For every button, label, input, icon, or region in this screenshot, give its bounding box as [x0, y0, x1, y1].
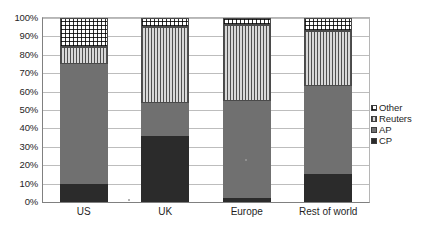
bar-segment-cp	[304, 174, 352, 202]
bar-stack	[141, 18, 189, 202]
y-axis: 100%90%80%70%60%50%40%30%20%10%0%	[0, 17, 38, 203]
x-tick-label: US	[43, 206, 125, 218]
x-tick-label: Europe	[206, 206, 288, 218]
bar-segment-other	[304, 18, 352, 31]
bottom-caption	[6, 228, 306, 233]
legend-item-label: AP	[379, 124, 391, 135]
legend-swatch-icon	[371, 127, 377, 133]
bar-group	[223, 18, 271, 202]
bar-group	[141, 18, 189, 202]
y-tick-label: 70%	[0, 68, 38, 78]
x-tick-label: Rest of world	[288, 206, 370, 218]
bar-segment-reuters	[223, 25, 271, 100]
legend-swatch-icon	[371, 138, 377, 144]
bar-segment-cp	[60, 184, 108, 202]
bar-segment-other	[141, 18, 189, 27]
y-tick-label: 90%	[0, 31, 38, 41]
y-tick-label: 20%	[0, 160, 38, 170]
legend-item: CP	[371, 135, 425, 146]
bar-stack	[223, 18, 271, 202]
bar-segment-cp	[141, 136, 189, 202]
bar-segment-other	[223, 18, 271, 25]
bar-segment-reuters	[60, 47, 108, 64]
legend-item: Other	[371, 102, 425, 113]
bar-segment-reuters	[304, 31, 352, 86]
legend-item: AP	[371, 124, 425, 135]
bar-segment-ap	[141, 103, 189, 136]
bar-group	[60, 18, 108, 202]
y-tick-label: 50%	[0, 105, 38, 115]
y-tick-label: 100%	[0, 13, 38, 23]
x-tick-label: UK	[125, 206, 207, 218]
y-tick-label: 80%	[0, 50, 38, 60]
stacked-bar-chart: 100%90%80%70%60%50%40%30%20%10%0% USUKEu…	[0, 0, 425, 233]
bar-segment-ap	[223, 101, 271, 199]
bars-layer	[43, 18, 369, 202]
bar-segment-ap	[304, 86, 352, 174]
y-tick-label: 30%	[0, 142, 38, 152]
y-tick-label: 10%	[0, 179, 38, 189]
legend-item-label: Reuters	[379, 113, 412, 124]
chart-legend: OtherReutersAPCP	[371, 102, 425, 146]
x-axis: USUKEuropeRest of world	[43, 206, 369, 224]
legend-swatch-icon	[371, 116, 377, 122]
legend-swatch-icon	[371, 105, 377, 111]
scan-artifact	[245, 159, 247, 161]
bar-group	[304, 18, 352, 202]
legend-item-label: Other	[379, 102, 402, 113]
bar-segment-other	[60, 18, 108, 47]
y-tick-label: 40%	[0, 123, 38, 133]
legend-item: Reuters	[371, 113, 425, 124]
bar-stack	[60, 18, 108, 202]
bar-segment-cp	[223, 198, 271, 202]
y-tick-label: 0%	[0, 197, 38, 207]
bar-segment-reuters	[141, 27, 189, 102]
y-tick-label: 60%	[0, 87, 38, 97]
bar-segment-ap	[60, 64, 108, 184]
scan-artifact	[128, 199, 130, 201]
bar-stack	[304, 18, 352, 202]
legend-item-label: CP	[379, 135, 392, 146]
